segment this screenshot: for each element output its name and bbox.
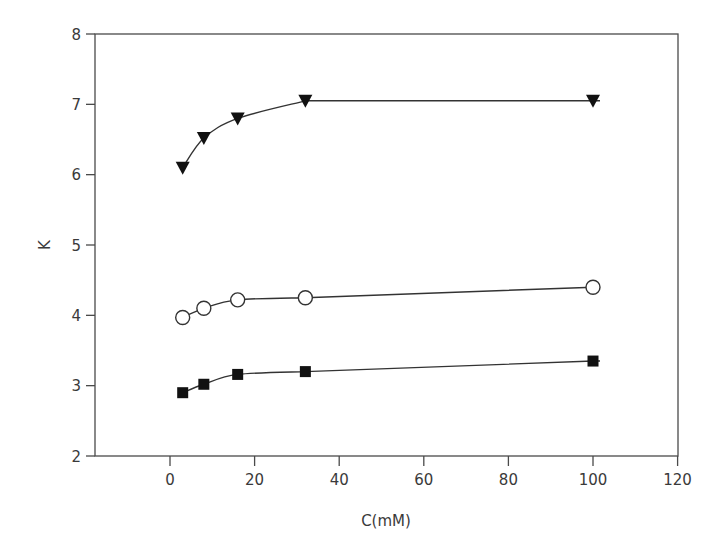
y-tick-label: 5 [71,237,81,255]
x-tick-label: 60 [414,471,433,489]
square-marker [300,366,311,377]
x-tick-label: 20 [245,471,264,489]
y-tick-label: 6 [71,166,81,184]
series-line [183,287,600,317]
series-line [183,101,600,168]
square-marker [198,379,209,390]
y-tick-label: 3 [71,377,81,395]
x-tick-label: 120 [663,471,692,489]
y-axis-title: K [36,239,54,250]
series-line [183,361,600,393]
square-marker [232,369,243,380]
square-marker [177,387,188,398]
y-tick-label: 8 [71,26,81,44]
series-triangle-down-filled [176,95,600,175]
circle-marker [197,301,211,315]
series-square-filled [177,356,600,399]
x-tick-label: 80 [499,471,518,489]
circle-marker [231,293,245,307]
circle-marker [176,310,190,324]
circle-marker [586,280,600,294]
series-circle-open [176,280,600,324]
y-axis: 2345678 [71,26,95,466]
x-tick-label: 40 [330,471,349,489]
y-tick-label: 2 [71,448,81,466]
x-tick-label: 0 [165,471,175,489]
chart: 2345678 020406080100120 C(mM) K [0,0,727,547]
y-tick-label: 7 [71,96,81,114]
square-marker [588,356,599,367]
x-axis-title: C(mM) [361,512,411,530]
series-layer [176,95,600,398]
triangle-marker [231,112,245,125]
x-axis: 020406080100120 [165,456,692,489]
x-tick-label: 100 [579,471,608,489]
circle-marker [298,291,312,305]
y-tick-label: 4 [71,307,81,325]
triangle-marker [176,162,190,175]
